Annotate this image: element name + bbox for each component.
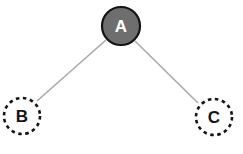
node-b[interactable]: B [4,98,40,134]
nodes-layer: A B C [4,7,232,135]
node-c-label: C [208,108,220,127]
edge-a-to-b [37,40,106,101]
edges-layer [37,40,198,103]
node-c[interactable]: C [196,99,232,135]
edge-a-to-c [135,41,198,103]
node-a-label: A [115,17,127,36]
tree-diagram: A B C [0,0,243,154]
node-a[interactable]: A [102,7,140,45]
node-b-label: B [16,107,28,126]
